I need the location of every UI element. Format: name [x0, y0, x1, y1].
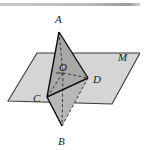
geometry-svg: A B C D O M — [0, 0, 151, 150]
right-white-margin — [140, 0, 151, 150]
vertex-label-a: A — [54, 13, 62, 25]
vertex-label-b: B — [58, 135, 65, 147]
plane-label-m: M — [117, 51, 128, 63]
vertex-label-d: D — [92, 73, 101, 85]
vertex-label-o: O — [59, 61, 67, 73]
vertex-label-c: C — [33, 92, 41, 104]
geometry-figure: A B C D O M — [0, 0, 151, 150]
